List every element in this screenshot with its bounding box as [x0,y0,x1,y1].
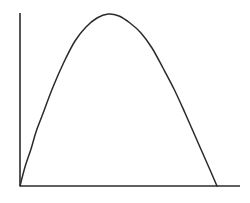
data-series-curve [20,14,217,186]
series-group [20,14,217,186]
plot-area [0,0,250,203]
axes-group [20,13,240,186]
chart-figure [0,0,250,203]
